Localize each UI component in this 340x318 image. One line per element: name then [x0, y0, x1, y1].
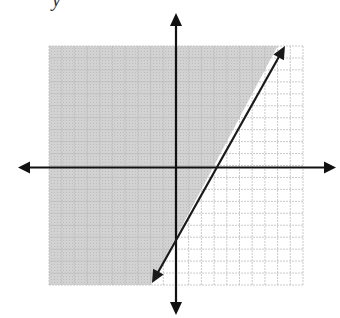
y-axis-up-arrow-icon — [170, 13, 182, 26]
x-axis-right-arrow-icon — [324, 162, 336, 174]
x-axis-left-arrow-icon — [18, 162, 30, 174]
y-axis-down-arrow-icon — [170, 302, 182, 315]
inequality-graph — [0, 0, 340, 318]
